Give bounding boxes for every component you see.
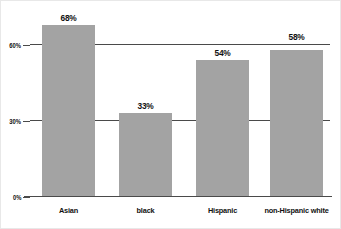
x-axis-line bbox=[24, 196, 332, 197]
y-tick-mark-30 bbox=[23, 121, 30, 122]
bar-asian[interactable] bbox=[42, 25, 95, 197]
bar-non-hispanic-white[interactable] bbox=[270, 50, 323, 197]
x-label-hispanic: Hispanic bbox=[198, 206, 247, 215]
x-label-non-hispanic-white: non-Hispanic white bbox=[261, 206, 332, 215]
plot-area: 60% 30% 0% 68% 33% 54% 58% Asian black H… bbox=[30, 7, 330, 197]
bar-value-asian: 68% bbox=[45, 12, 92, 23]
bar-black[interactable] bbox=[119, 113, 172, 197]
bar-hispanic[interactable] bbox=[196, 60, 249, 197]
x-label-asian: Asian bbox=[44, 206, 93, 215]
y-tick-mark-0 bbox=[23, 197, 30, 198]
y-tick-label-30: 30% bbox=[9, 118, 21, 125]
y-tick-label-60: 60% bbox=[9, 42, 21, 49]
bar-value-black: 33% bbox=[122, 100, 169, 111]
bar-value-non-hispanic-white: 58% bbox=[273, 31, 320, 42]
bar-value-hispanic: 54% bbox=[199, 47, 246, 58]
bar-chart-figure: 60% 30% 0% 68% 33% 54% 58% Asian black H… bbox=[0, 0, 341, 229]
y-tick-label-0: 0% bbox=[13, 194, 21, 201]
x-label-black: black bbox=[121, 206, 170, 215]
y-tick-mark-60 bbox=[23, 45, 30, 46]
